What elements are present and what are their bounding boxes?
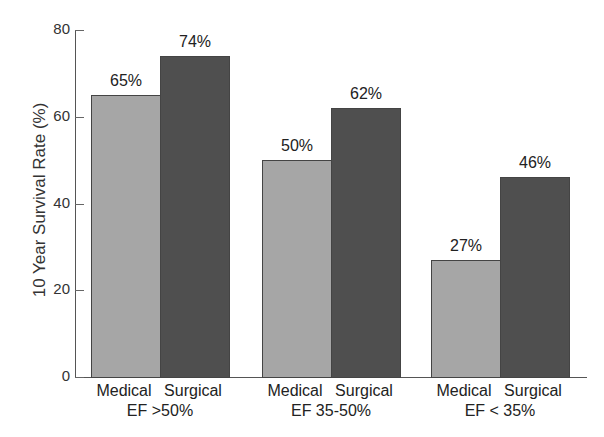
y-tick-label: 0 <box>40 367 70 384</box>
bar-medical <box>262 160 332 378</box>
y-tick <box>75 117 84 118</box>
y-tick <box>75 30 84 31</box>
bar-medical <box>431 260 501 378</box>
bar-chart: 10 Year Survival Rate (%) 020406080 65%M… <box>0 0 604 437</box>
value-label: 62% <box>331 85 401 103</box>
bar-surgical <box>500 177 570 378</box>
y-tick-label: 80 <box>40 20 70 37</box>
value-label: 65% <box>91 72 161 90</box>
bar-surgical <box>331 108 401 378</box>
y-tick-label: 20 <box>40 280 70 297</box>
bar-medical <box>91 95 161 378</box>
category-label: Surgical <box>498 382 568 400</box>
y-tick <box>75 204 84 205</box>
category-label: Surgical <box>329 382 399 400</box>
y-tick <box>75 377 84 378</box>
group-label: EF 35-50% <box>251 402 411 420</box>
category-label: Medical <box>89 382 159 400</box>
category-label: Medical <box>429 382 499 400</box>
y-tick-label: 40 <box>40 194 70 211</box>
value-label: 50% <box>262 137 332 155</box>
group-label: EF < 35% <box>420 402 580 420</box>
category-label: Medical <box>260 382 330 400</box>
bar-surgical <box>160 56 230 378</box>
group-label: EF >50% <box>80 402 240 420</box>
value-label: 46% <box>500 154 570 172</box>
y-tick-label: 60 <box>40 107 70 124</box>
value-label: 74% <box>160 33 230 51</box>
value-label: 27% <box>431 237 501 255</box>
y-tick <box>75 290 84 291</box>
category-label: Surgical <box>158 382 228 400</box>
